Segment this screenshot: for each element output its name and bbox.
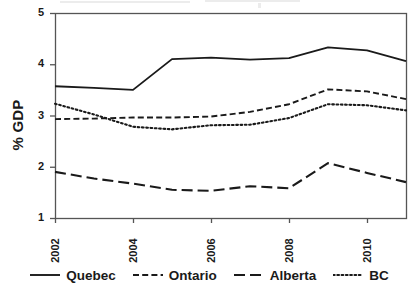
series-line-quebec <box>55 47 406 90</box>
legend-item-alberta: Alberta <box>234 268 317 283</box>
series-line-bc <box>55 104 406 130</box>
legend-label: Ontario <box>169 268 217 283</box>
legend-label: Quebec <box>66 268 116 283</box>
legend-label: BC <box>369 268 389 283</box>
long-dash-line-icon <box>234 269 264 281</box>
series-line-alberta <box>55 163 406 191</box>
solid-line-icon <box>30 269 60 281</box>
legend-item-ontario: Ontario <box>133 268 217 283</box>
data-series-group <box>55 47 406 191</box>
chart-figure: % GDP 12345 20022004200620082010 QuebecO… <box>0 0 419 295</box>
dotted-line-icon <box>333 269 363 281</box>
chart-legend: QuebecOntarioAlbertaBC <box>0 262 419 288</box>
legend-label: Alberta <box>270 268 317 283</box>
dashed-line-icon <box>133 269 163 281</box>
plot-area <box>0 0 419 295</box>
legend-item-bc: BC <box>333 268 389 283</box>
legend-item-quebec: Quebec <box>30 268 116 283</box>
